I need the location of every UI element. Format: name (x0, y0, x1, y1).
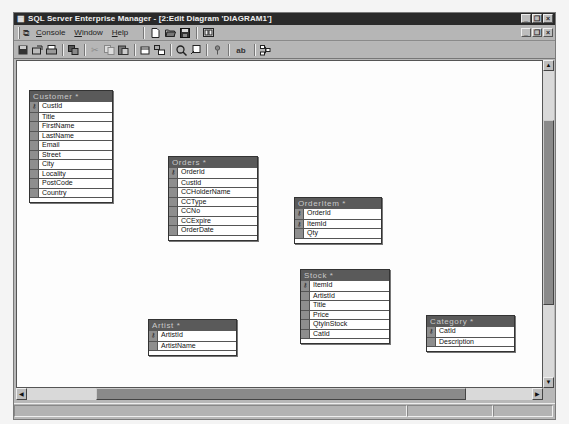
scroll-right-button[interactable]: ▶ (532, 388, 543, 400)
column-row[interactable]: Street (30, 150, 112, 160)
column-row[interactable]: CCNo (169, 206, 257, 216)
new-icon[interactable] (149, 27, 161, 38)
row-selector[interactable] (301, 311, 310, 320)
row-selector[interactable]: ⚷ (149, 331, 158, 341)
column-row[interactable]: Title (30, 112, 112, 122)
column-row[interactable]: CCType (169, 197, 257, 207)
column-row[interactable]: Qty (295, 228, 381, 238)
table-title[interactable]: OrderItem * (295, 198, 381, 209)
row-selector[interactable] (169, 179, 178, 188)
add-table-icon[interactable] (153, 45, 165, 56)
row-selector[interactable] (30, 170, 39, 179)
column-row[interactable]: FirstName (30, 121, 112, 131)
row-selector[interactable]: ⚷ (427, 327, 436, 337)
open-icon[interactable] (164, 27, 176, 38)
row-selector[interactable] (301, 320, 310, 329)
column-row[interactable]: ⚷CustId (30, 102, 112, 112)
new-table-icon[interactable] (139, 45, 151, 56)
row-selector[interactable] (169, 226, 178, 235)
restore-button[interactable]: ❐ (532, 14, 542, 23)
new-column-row[interactable] (427, 346, 514, 351)
row-selector[interactable] (30, 122, 39, 131)
column-row[interactable]: ⚷CatId (427, 327, 514, 337)
table-orderitem[interactable]: OrderItem *⚷OrderId⚷ItemIdQty (294, 197, 382, 244)
row-selector[interactable] (301, 301, 310, 310)
properties-icon[interactable] (202, 27, 214, 38)
table-title[interactable]: Customer * (30, 91, 112, 102)
row-selector[interactable] (169, 198, 178, 207)
row-selector[interactable] (30, 113, 39, 122)
table-customer[interactable]: Customer *⚷CustIdTitleFirstNameLastNameE… (29, 90, 113, 203)
column-row[interactable]: CatId (301, 329, 389, 339)
horizontal-scrollbar[interactable]: ◀ ▶ (16, 388, 543, 400)
table-title[interactable]: Category * (427, 316, 514, 327)
column-row[interactable]: Email (30, 140, 112, 150)
print-setup-icon[interactable] (31, 45, 43, 56)
column-row[interactable]: CCExpire (169, 216, 257, 226)
scroll-down-button[interactable]: ▼ (543, 377, 554, 388)
column-row[interactable]: OrderDate (169, 225, 257, 235)
column-row[interactable]: ArtistName (149, 341, 236, 351)
mdi-restore-button[interactable]: ❐ (532, 28, 542, 37)
row-selector[interactable] (149, 342, 158, 351)
layout-icon[interactable] (189, 45, 201, 56)
new-column-row[interactable] (169, 235, 257, 240)
new-column-row[interactable] (301, 338, 389, 343)
print-icon[interactable] (45, 45, 57, 56)
column-row[interactable]: ⚷OrderId (295, 209, 381, 219)
close-button[interactable]: × (543, 14, 553, 23)
new-column-row[interactable] (295, 238, 381, 243)
row-selector[interactable] (30, 132, 39, 141)
table-stock[interactable]: Stock *⚷ItemIdArtistIdTitlePriceQtyInSto… (300, 269, 390, 344)
column-row[interactable]: ⚷ItemId (301, 281, 389, 291)
menu-console[interactable]: Console (36, 28, 65, 37)
vertical-scroll-thumb[interactable] (543, 120, 554, 305)
copy-diagram-icon[interactable] (67, 45, 79, 56)
row-selector[interactable] (30, 160, 39, 169)
paste-icon[interactable] (117, 45, 129, 56)
column-row[interactable]: LastName (30, 131, 112, 141)
row-selector[interactable]: ⚷ (295, 220, 304, 229)
set-primary-key-icon[interactable] (211, 45, 223, 56)
row-selector[interactable]: ⚷ (30, 102, 39, 112)
arrange-tables-icon[interactable] (259, 45, 271, 56)
row-selector[interactable] (427, 338, 436, 347)
scroll-left-button[interactable]: ◀ (16, 388, 27, 400)
row-selector[interactable] (169, 188, 178, 197)
title-bar[interactable]: ▦ SQL Server Enterprise Manager - [2:Edi… (14, 13, 555, 25)
mdi-close-button[interactable]: × (543, 28, 553, 37)
column-row[interactable]: ⚷OrderId (169, 168, 257, 178)
row-selector[interactable] (30, 141, 39, 150)
menu-window[interactable]: Window (74, 28, 102, 37)
row-selector[interactable] (30, 189, 39, 198)
row-selector[interactable] (30, 179, 39, 188)
horizontal-scroll-thumb[interactable] (96, 388, 466, 400)
mdi-minimize-button[interactable]: _ (521, 28, 531, 37)
row-selector[interactable] (295, 229, 304, 238)
table-category[interactable]: Category *⚷CatIdDescription (426, 315, 515, 352)
vertical-scrollbar[interactable]: ▲ ▼ (543, 60, 554, 388)
menu-grip[interactable] (18, 27, 20, 39)
column-row[interactable]: Description (427, 337, 514, 347)
table-artist[interactable]: Artist *⚷ArtistIdArtistName (148, 319, 237, 356)
column-row[interactable]: ⚷ArtistId (149, 331, 236, 341)
row-selector[interactable] (301, 330, 310, 339)
new-column-row[interactable] (149, 350, 236, 355)
diagram-canvas[interactable]: Customer *⚷CustIdTitleFirstNameLastNameE… (16, 60, 543, 388)
row-selector[interactable] (169, 217, 178, 226)
table-title[interactable]: Orders * (169, 157, 257, 168)
table-title[interactable]: Stock * (301, 270, 389, 281)
zoom-icon[interactable] (175, 45, 187, 56)
table-title[interactable]: Artist * (149, 320, 236, 331)
column-row[interactable]: Country (30, 188, 112, 198)
save-diagram-icon[interactable] (17, 45, 29, 56)
copy-icon[interactable] (103, 45, 115, 56)
column-row[interactable]: PostCode (30, 178, 112, 188)
column-row[interactable]: ArtistId (301, 291, 389, 301)
row-selector[interactable] (30, 151, 39, 160)
table-orders[interactable]: Orders *⚷OrderIdCustIdCCHolderNameCCType… (168, 156, 258, 241)
new-text-annotation-icon[interactable]: ab (233, 45, 249, 56)
minimize-button[interactable]: _ (521, 14, 531, 23)
column-row[interactable]: City (30, 159, 112, 169)
column-row[interactable]: QtyInStock (301, 319, 389, 329)
